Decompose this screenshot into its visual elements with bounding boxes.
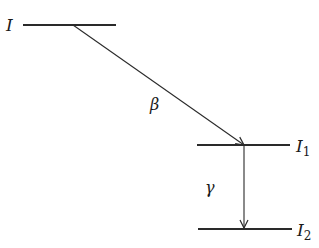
- decay-scheme-diagram: I β I1 γ I2: [0, 0, 319, 248]
- beta-label: β: [149, 95, 159, 114]
- gamma-label: γ: [205, 178, 215, 197]
- level-label-I: I: [5, 15, 13, 35]
- level-label-I2: I2: [296, 220, 311, 243]
- beta-transition-arrow: [73, 25, 244, 145]
- level-label-I1: I1: [295, 136, 310, 159]
